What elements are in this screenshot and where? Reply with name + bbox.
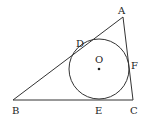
incircle-diagram: A B C D E F O (0, 0, 148, 122)
label-f: F (131, 60, 138, 71)
label-d: D (76, 38, 84, 49)
label-o: O (95, 54, 103, 65)
label-e: E (95, 105, 102, 116)
center-point-o (98, 68, 101, 71)
label-c: C (130, 105, 138, 116)
side-ab (13, 17, 123, 100)
label-b: B (12, 105, 19, 116)
side-ca (123, 17, 133, 100)
label-a: A (117, 5, 126, 16)
